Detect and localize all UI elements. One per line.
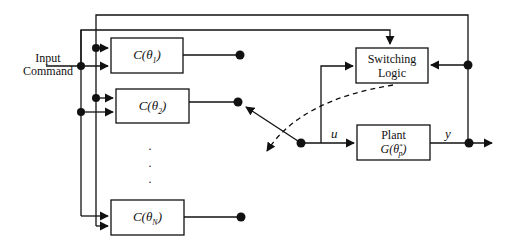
switching-logic-label: Switching Logic [356, 53, 428, 79]
switch-contact-2 [234, 98, 243, 107]
plant-label: Plant G(θ*p) [357, 129, 430, 158]
ellipsis-dot-1: · [148, 143, 152, 155]
switch-arm [246, 107, 301, 143]
switch-contact-n [237, 213, 246, 222]
block-diagram-canvas [0, 0, 513, 249]
signal-u-label: u [331, 127, 338, 140]
input-command-label: Input Command [20, 52, 76, 77]
switch-pivot [297, 139, 306, 148]
ellipsis-dot-2: · [148, 160, 152, 172]
signal-y-label: y [445, 127, 451, 140]
switch-contact-1 [236, 51, 245, 60]
controller-2-label: C(θ2) [116, 99, 189, 116]
controller-n-label: C(θN) [111, 210, 184, 227]
controller-1-label: C(θ1) [111, 48, 183, 65]
ellipsis-dot-3: · [148, 176, 152, 188]
